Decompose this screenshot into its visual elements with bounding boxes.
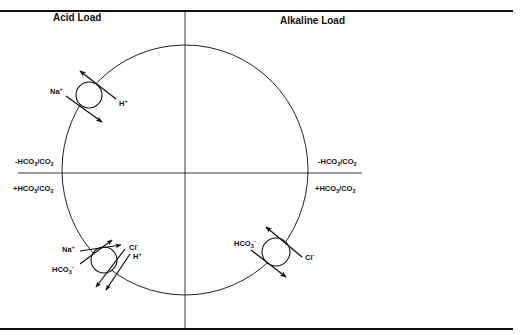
right-lower-hco3-co2-label: +HCO3/CO2: [315, 184, 356, 194]
left-upper-hco3-co2-label: -HCO3/CO2: [15, 157, 54, 167]
left-lower-hco3-co2-label: +HCO3/CO2: [13, 184, 54, 194]
right-upper-hco3-co2-label: -HCO3/CO2: [318, 157, 357, 167]
chloride-bicarbonate-exchanger: HCO3- Cl-: [234, 227, 315, 277]
sodium-bicarbonate-chloride-proton-exchanger: Na+ HCO3- Cl- H+: [52, 240, 142, 290]
bicarbonate-ion-label: HCO3-: [234, 238, 256, 249]
exchanger-circle: [91, 247, 117, 273]
chloride-ion-label: Cl-: [129, 242, 139, 252]
bicarbonate-ion-label: HCO3-: [52, 264, 74, 275]
acid-load-title: Acid Load: [53, 12, 101, 23]
proton-ion-label: H+: [133, 251, 142, 261]
chloride-ion-label: Cl-: [305, 252, 315, 262]
alkaline-load-title: Alkaline Load: [280, 15, 345, 26]
acid-base-load-diagram: Acid Load Alkaline Load -HCO3/CO2 +HCO3/…: [0, 0, 520, 335]
proton-ion-label: H+: [119, 98, 128, 108]
sodium-ion-label: Na+: [50, 86, 63, 96]
sodium-ion-label: Na+: [62, 244, 75, 254]
sodium-proton-exchanger: Na+ H+: [50, 71, 128, 122]
